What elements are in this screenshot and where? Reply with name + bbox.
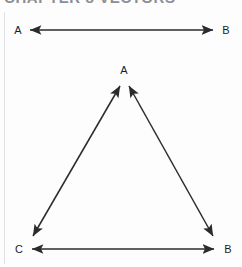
edge-ab-line: [129, 86, 213, 236]
triangle-vertex-label-b: B: [224, 243, 231, 255]
triangle-vertex-label-a: A: [120, 64, 128, 76]
segment-label-a: A: [14, 24, 22, 36]
top-segment-group: A B: [14, 24, 229, 36]
segment-label-b: B: [222, 24, 229, 36]
figure-root: CHAPTER 8 VECTORS A B A C B: [0, 0, 242, 267]
triangle-vertex-label-c: C: [15, 243, 23, 255]
edge-ca-line: [33, 86, 120, 236]
vector-diagram: A B A C B: [0, 0, 242, 267]
triangle-group: A C B: [15, 64, 232, 255]
